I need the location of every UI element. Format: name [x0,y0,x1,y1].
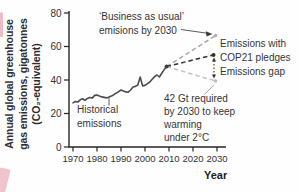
x-tick-label: 2010 [158,153,179,164]
annotation-historical-emissions: Historical emissions [77,103,121,131]
annotation-business-as-usual: ‘Business as usual’ emisions by 2030 [99,10,184,37]
y-axis-title: Annual global greenhouse gas emissions, … [3,4,45,164]
required-42gt-line [167,67,216,81]
y-tick-label: 60 [50,41,62,52]
business-as-usual-end-dot [214,34,218,38]
historical-end-dot [165,65,169,69]
annotation-cop21-pledges: Emissions with COP21 pledges [220,37,291,64]
y-tick-label: 20 [50,108,62,119]
historical-emissions-line [73,67,167,103]
required-42gt-end-dot [214,79,218,83]
annotation-42gt-required: 42 Gt required by 2030 to keep warming u… [164,92,235,144]
business-as-usual-pointer-arrowhead [206,31,213,36]
x-tick-label: 1970 [62,153,83,164]
y-tick-label: 80 [50,8,62,19]
business-as-usual-pointer-line [181,30,207,34]
emissions-gap-arrowhead-down [212,75,216,79]
x-tick-label: 2020 [182,153,203,164]
x-axis-title: Year [204,169,227,183]
x-tick-label: 1990 [110,153,131,164]
x-tick-label: 2000 [134,153,155,164]
cop21-pledges-line [167,55,214,67]
x-tick-label: 1980 [86,153,107,164]
emissions-gap-arrowhead-up [212,58,216,62]
business-as-usual-line [167,36,216,67]
annotation-emissions-gap: Emissions gap [220,65,285,79]
y-tick-label: 40 [50,75,62,86]
emissions-figure: 0204060801970198019902000201020202030 An… [0,0,299,192]
x-tick-label: 2030 [206,153,227,164]
y-tick-label: 0 [56,142,62,153]
cop21-end-dot [212,53,216,57]
